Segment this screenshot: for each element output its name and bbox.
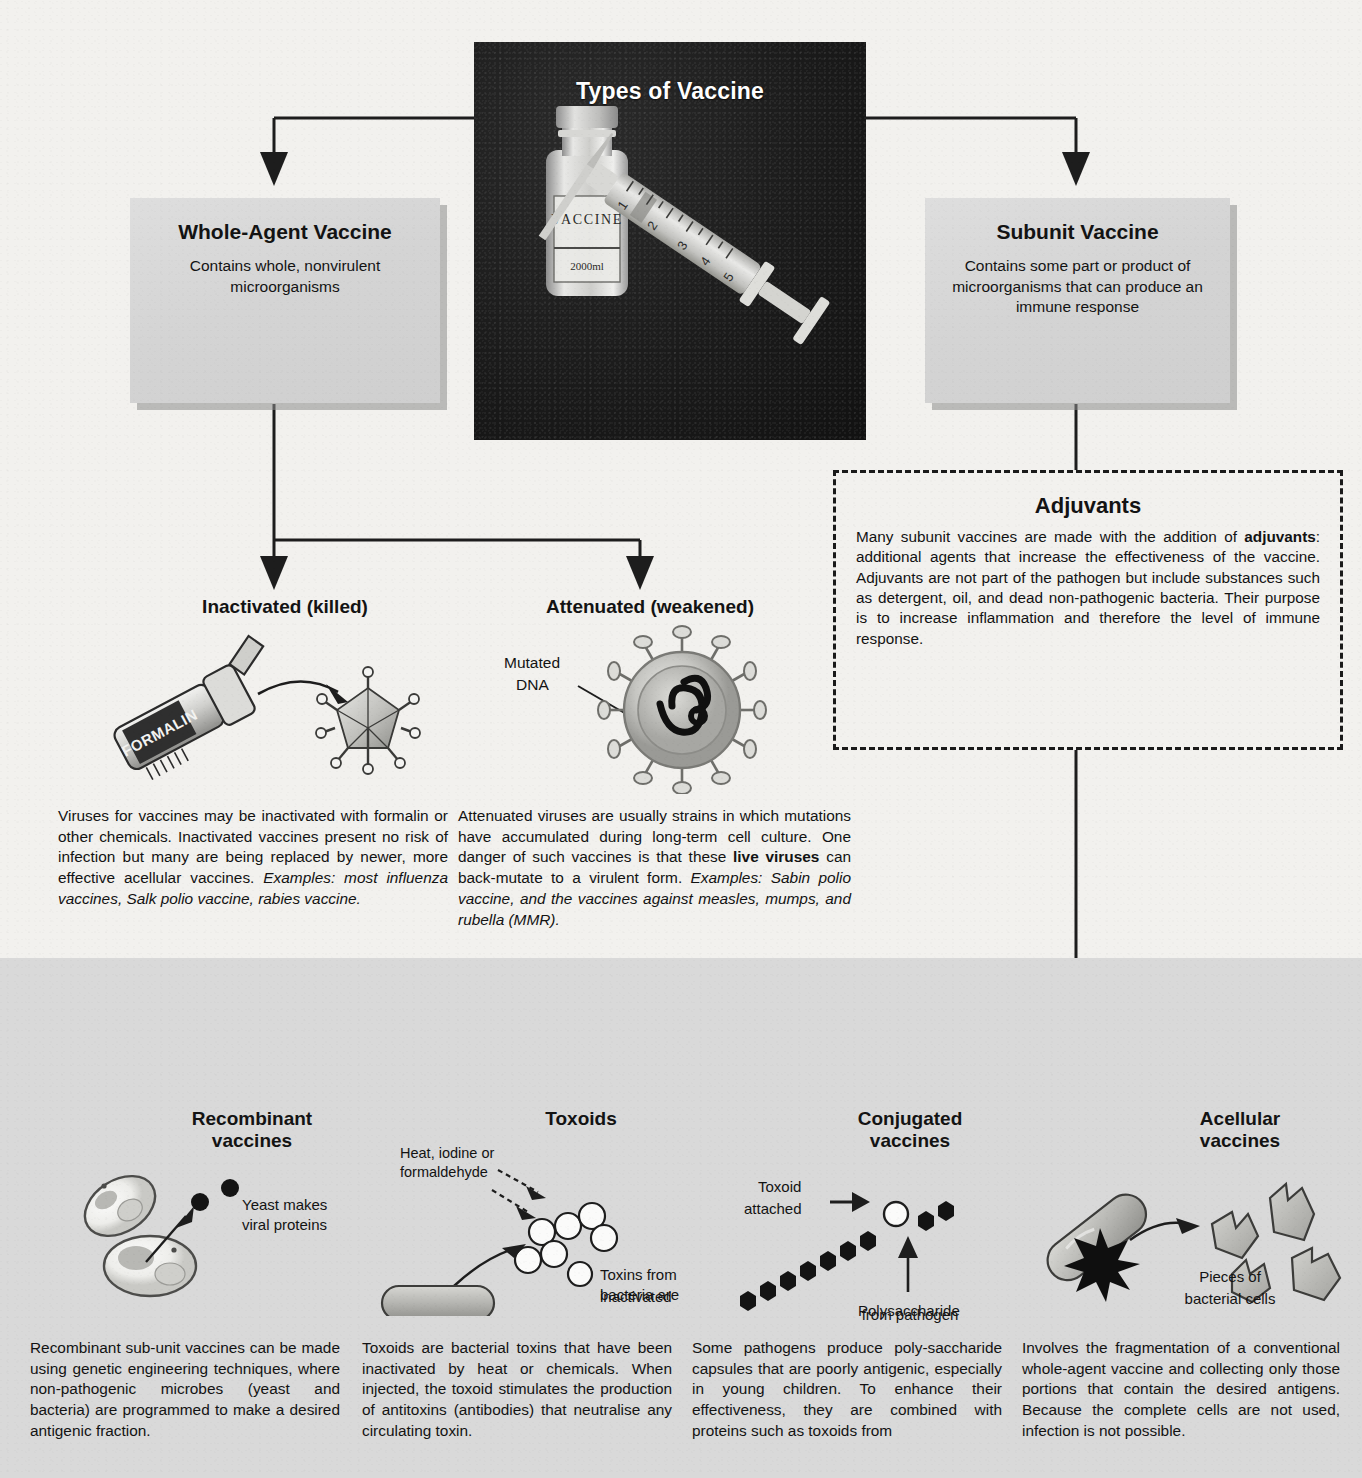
vaccine-photo: VACCINE 2000ml xyxy=(474,42,866,440)
svg-text:Yeast makes: Yeast makes xyxy=(242,1196,327,1213)
subunit-vaccine-box: Subunit Vaccine Contains some part or pr… xyxy=(925,198,1230,403)
conjugated-heading-line2: vaccines xyxy=(790,1130,1030,1152)
acellular-heading-line2: vaccines xyxy=(1120,1130,1360,1152)
toxoids-paragraph: Toxoids are bacterial toxins that have b… xyxy=(362,1338,672,1442)
mutated-dna-label-line1: Mutated xyxy=(504,654,560,671)
recombinant-icon: Yeast makes viral proteins xyxy=(46,1158,346,1308)
enveloped-virus xyxy=(598,626,766,794)
bacterium-shape xyxy=(382,1286,494,1316)
toxoids-heading-line1: Toxoids xyxy=(461,1108,701,1130)
subunit-body: Contains some part or product of microor… xyxy=(941,256,1214,316)
viral-protein-dot xyxy=(191,1193,209,1211)
adjuvants-title: Adjuvants xyxy=(856,493,1320,519)
toxoids-heading: Toxoids xyxy=(461,1108,701,1130)
recombinant-heading-line2: vaccines xyxy=(132,1130,372,1152)
adjuvants-keyword: adjuvants xyxy=(1244,528,1315,545)
adjuvants-body-part2: : additional agents that increase the ef… xyxy=(856,528,1320,647)
polysaccharide-chain xyxy=(740,1201,954,1311)
adjuvants-body-part1: Many subunit vaccines are made with the … xyxy=(856,528,1244,545)
attenuated-icon: Mutated DNA xyxy=(470,624,830,794)
formalin-bottle: FORMALIN xyxy=(110,632,294,786)
conjugated-caption-tail: from pathogen xyxy=(790,1306,1030,1324)
acellular-caption-line1: Pieces of xyxy=(1110,1268,1350,1286)
mutated-dna-label-line2: DNA xyxy=(516,676,549,693)
recombinant-heading-line1: Recombinant xyxy=(132,1108,372,1130)
acellular-caption-line2: bacterial cells xyxy=(1110,1290,1350,1308)
conjugated-icon: Toxoid attached Polysaccharide xyxy=(706,1158,1026,1328)
attenuated-keyword: live viruses xyxy=(733,848,819,865)
inactivated-heading: Inactivated (killed) xyxy=(120,596,450,618)
attenuated-paragraph: Attenuated viruses are usually strains i… xyxy=(458,806,851,930)
svg-text:formaldehyde: formaldehyde xyxy=(400,1164,488,1180)
viral-protein-dot xyxy=(221,1179,239,1197)
icosahedral-virus xyxy=(316,667,420,774)
recombinant-paragraph: Recombinant sub-unit vaccines can be mad… xyxy=(30,1338,340,1442)
svg-text:2000ml: 2000ml xyxy=(570,260,604,272)
conjugated-paragraph: Some pathogens produce poly-saccharide c… xyxy=(692,1338,1002,1442)
poster-title: Types of Vaccine xyxy=(474,78,866,105)
svg-text:Toxins from: Toxins from xyxy=(600,1266,677,1283)
acellular-heading: Acellular vaccines xyxy=(1120,1108,1360,1153)
adjuvants-body: Many subunit vaccines are made with the … xyxy=(856,527,1320,649)
svg-text:attached: attached xyxy=(744,1200,802,1217)
adjuvants-box: Adjuvants Many subunit vaccines are made… xyxy=(833,470,1343,750)
whole-agent-vaccine-box: Whole-Agent Vaccine Contains whole, nonv… xyxy=(130,198,440,403)
svg-text:Heat, iodine or: Heat, iodine or xyxy=(400,1145,494,1161)
svg-text:Toxoid: Toxoid xyxy=(758,1178,801,1195)
inactivated-icon: FORMALIN xyxy=(110,630,460,790)
toxoid-circle xyxy=(884,1202,908,1226)
acellular-paragraph: Involves the fragmentation of a conventi… xyxy=(1022,1338,1340,1442)
attenuated-heading: Attenuated (weakened) xyxy=(455,596,845,618)
acellular-heading-line1: Acellular xyxy=(1120,1108,1360,1130)
conjugated-heading: Conjugated vaccines xyxy=(790,1108,1030,1153)
recombinant-heading: Recombinant vaccines xyxy=(132,1108,372,1153)
whole-agent-body: Contains whole, nonvirulent microorganis… xyxy=(146,256,424,296)
whole-agent-title: Whole-Agent Vaccine xyxy=(146,220,424,244)
yeast-cells xyxy=(74,1164,196,1296)
subunit-title: Subunit Vaccine xyxy=(941,220,1214,244)
inactivated-paragraph: Viruses for vaccines may be inactivated … xyxy=(58,806,448,910)
conjugated-heading-line1: Conjugated xyxy=(790,1108,1030,1130)
svg-text:viral proteins: viral proteins xyxy=(242,1216,327,1233)
